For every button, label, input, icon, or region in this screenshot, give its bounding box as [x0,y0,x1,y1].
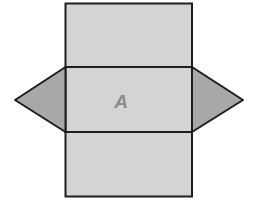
right-triangle [192,67,243,132]
bottom-rectangle [66,132,193,197]
middle-rectangle [66,67,193,132]
face-label-a: A [113,91,128,112]
left-triangle [15,67,66,132]
prism-net-diagram: A [0,0,255,205]
top-rectangle [66,4,193,68]
